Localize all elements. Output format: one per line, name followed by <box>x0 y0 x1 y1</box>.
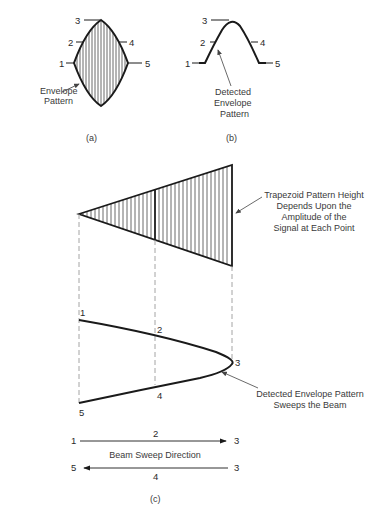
envelope-annotation-line2: Sweeps the Beam <box>273 400 346 410</box>
beam-sweep-direction: 1 2 3 Beam Sweep Direction 3 4 5 <box>71 428 239 482</box>
caption-c: (c) <box>150 494 161 504</box>
caption-b: (b) <box>226 133 237 143</box>
envelope-point-4: 4 <box>157 390 162 401</box>
trapezoid-annotation-line3: Amplitude of the <box>281 212 346 222</box>
sweep-reverse-start: 3 <box>234 462 239 473</box>
trapezoid-annotation-line4: Signal at Each Point <box>273 223 355 233</box>
envelope-annotation-line2: Pattern <box>44 96 73 106</box>
sweep-reverse-end: 5 <box>71 462 76 473</box>
trapezoid-pointer-arrow <box>236 197 262 213</box>
detected-annotation-line1: Detected <box>215 87 251 97</box>
point-label-1: 1 <box>185 58 190 69</box>
figure-c-trapezoid-pattern: Trapezoid Pattern Height Depends Upon th… <box>71 160 364 504</box>
point-label-5: 5 <box>275 58 280 69</box>
diagram-canvas: 1 2 3 4 5 Envelope Pattern (a) 1 2 3 4 5… <box>0 0 384 517</box>
detected-pointer-arrow <box>218 50 231 86</box>
sweep-forward-end: 3 <box>234 435 239 446</box>
envelope-point-3: 3 <box>235 357 240 368</box>
point-label-2: 2 <box>68 37 73 48</box>
point-label-3: 3 <box>202 15 207 26</box>
point-label-4: 4 <box>260 37 265 48</box>
envelope-annotation-line1: Envelope <box>40 86 78 96</box>
figure-b-detected-envelope: 1 2 3 4 5 Detected Envelope Pattern (b) <box>185 15 280 143</box>
trapezoid-hatching <box>83 160 227 270</box>
detected-annotation-line2: Envelope <box>214 98 252 108</box>
sweep-reverse-mid: 4 <box>153 471 158 482</box>
sweep-forward-mid: 2 <box>153 428 158 439</box>
point-label-3: 3 <box>75 15 80 26</box>
envelope-point-5: 5 <box>79 407 84 418</box>
trapezoid-annotation-line2: Depends Upon the <box>276 201 351 211</box>
trapezoid-annotation-line1: Trapezoid Pattern Height <box>264 190 364 200</box>
figure-a-envelope-pattern: 1 2 3 4 5 Envelope Pattern (a) <box>40 15 150 143</box>
sweep-forward-start: 1 <box>71 435 76 446</box>
caption-a: (a) <box>86 133 97 143</box>
envelope-point-2: 2 <box>157 324 162 335</box>
envelope-point-1: 1 <box>80 307 85 318</box>
point-label-4: 4 <box>129 37 134 48</box>
point-label-2: 2 <box>200 37 205 48</box>
diamond-hatching <box>77 15 125 110</box>
envelope-pointer-arrow <box>222 372 258 388</box>
detected-annotation-line3: Pattern <box>220 109 249 119</box>
envelope-annotation-line1: Detected Envelope Pattern <box>256 389 364 399</box>
sweep-envelope-curve <box>79 320 233 403</box>
point-label-5: 5 <box>145 58 150 69</box>
sweep-direction-label: Beam Sweep Direction <box>109 450 201 460</box>
point-label-1: 1 <box>59 58 64 69</box>
